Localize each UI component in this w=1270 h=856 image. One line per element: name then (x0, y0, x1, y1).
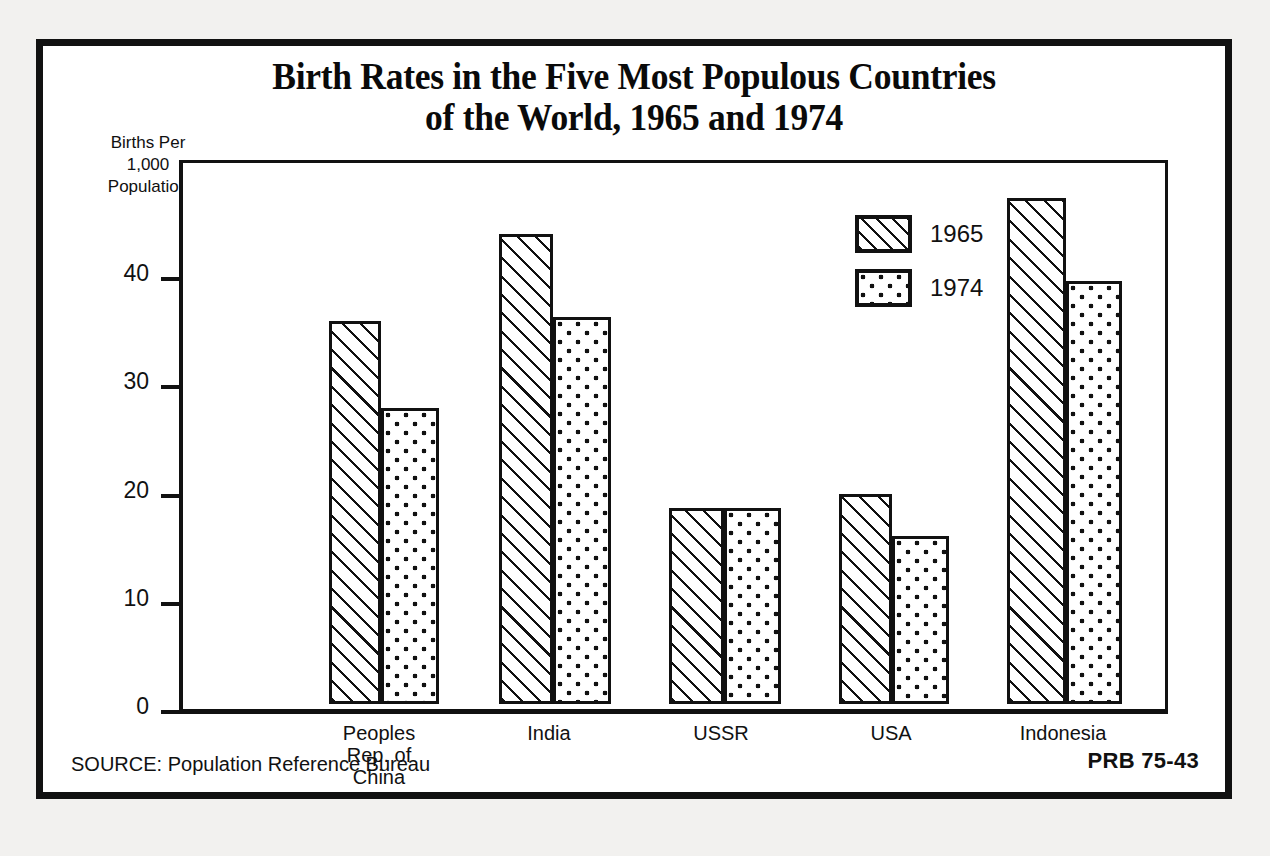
category-label-3: USSR (631, 722, 811, 744)
bar-1974-4 (892, 536, 949, 704)
y-tick-label-10: 10 (89, 587, 149, 610)
y-tick-label-0: 0 (89, 695, 149, 718)
category-label-2-line-1: India (459, 722, 639, 744)
legend-item-1965: 1965 (855, 215, 983, 253)
chart-title: Birth Rates in the Five Most Populous Co… (43, 56, 1225, 138)
y-tick-40 (161, 277, 183, 281)
category-label-2: India (459, 722, 639, 744)
legend-label-1974: 1974 (930, 274, 983, 302)
title-line-1: Birth Rates in the Five Most Populous Co… (67, 56, 1202, 97)
bar-1965-1 (329, 321, 381, 704)
category-label-1-line-1: Peoples (289, 722, 469, 744)
y-tick-label-30: 30 (89, 370, 149, 393)
bar-1974-5 (1066, 281, 1122, 704)
legend-label-1965: 1965 (930, 220, 983, 248)
plot-area: 19651974 (179, 160, 1168, 714)
bar-1974-2 (553, 317, 611, 704)
plot-inner: 19651974 (183, 163, 1165, 709)
y-tick-10 (161, 602, 183, 606)
category-label-3-line-1: USSR (631, 722, 811, 744)
bar-1965-4 (839, 494, 892, 704)
y-axis-caption-line-1: Births Per (89, 132, 207, 154)
y-tick-30 (161, 385, 183, 389)
publication-code: PRB 75-43 (1087, 748, 1199, 774)
category-label-4: USA (801, 722, 981, 744)
source-note: SOURCE: Population Reference Bureau (71, 753, 430, 776)
bar-1965-2 (499, 234, 553, 704)
legend-item-1974: 1974 (855, 269, 983, 307)
y-tick-label-20: 20 (89, 479, 149, 502)
bar-1974-1 (381, 408, 439, 704)
bar-1974-3 (724, 508, 781, 704)
category-label-5: Indonesia (973, 722, 1153, 744)
legend: 19651974 (855, 215, 983, 323)
poster-frame: Birth Rates in the Five Most Populous Co… (36, 39, 1232, 799)
bar-1965-3 (669, 508, 724, 704)
title-line-2: of the World, 1965 and 1974 (67, 97, 1202, 138)
category-label-5-line-1: Indonesia (973, 722, 1153, 744)
legend-swatch-hatch (855, 215, 912, 253)
y-tick-0 (161, 710, 183, 714)
category-label-4-line-1: USA (801, 722, 981, 744)
legend-swatch-dots (855, 269, 912, 307)
y-tick-20 (161, 494, 183, 498)
y-tick-label-40: 40 (89, 262, 149, 285)
bar-1965-5 (1007, 198, 1066, 704)
